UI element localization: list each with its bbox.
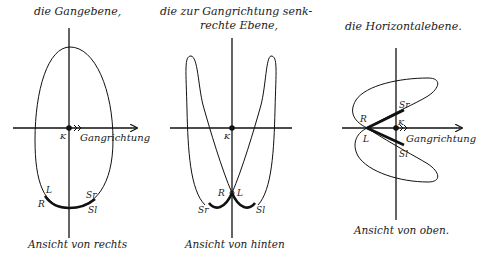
center-point-k [229,125,235,131]
panel-3-diagram: K R L Sr Sl Gangrichtung [342,48,476,220]
label-sl: Sl [88,205,97,215]
label-r: R [359,114,367,124]
label-sr: Sr [86,190,97,200]
label-k: K [223,132,231,141]
axis-label-gangrichtung: Gangrichtung [80,132,150,143]
support-arc-right [232,193,255,208]
label-sl: Sl [256,205,265,215]
panel-1-diagram: K Gangrichtung L R Sr Sl [13,28,150,238]
right-lobe [232,56,276,205]
label-l: L [45,185,52,195]
diagram-canvas: K Gangrichtung L R Sr Sl K R L Sr Sl [0,0,485,259]
left-lobe [186,56,232,205]
label-sl: Sl [399,149,408,159]
label-r: R [217,188,225,198]
label-k: K [397,118,405,127]
panel-2-diagram: K R L Sr Sl [170,38,292,238]
label-l: L [362,134,369,144]
label-sr: Sr [198,205,209,215]
leg-left [367,128,404,145]
center-point-k [66,125,72,131]
label-r: R [37,199,45,209]
axis-label-gangrichtung: Gangrichtung [406,133,476,144]
label-l: L [236,188,243,198]
label-k: K [59,132,67,141]
label-sr: Sr [399,100,410,110]
